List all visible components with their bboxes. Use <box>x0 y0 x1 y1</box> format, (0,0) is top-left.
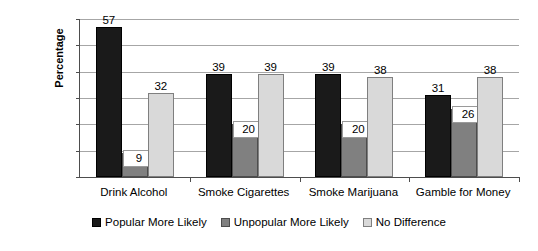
y-tick-mark <box>76 177 80 178</box>
x-category-label: Smoke Marijuana <box>299 186 409 198</box>
legend-swatch-icon <box>92 218 101 227</box>
y-axis-title: Percentage <box>53 3 73 113</box>
legend-label: Popular More Likely <box>105 216 207 228</box>
bar-group: 392039 <box>206 19 284 177</box>
bar <box>96 27 122 177</box>
bar-value-label: 38 <box>367 64 393 76</box>
y-tick-mark <box>76 98 80 99</box>
bar <box>206 74 232 177</box>
legend-swatch-icon <box>363 218 372 227</box>
bar <box>258 74 284 177</box>
x-axis-separator-tick <box>409 177 410 182</box>
bar-value-label: 38 <box>477 64 503 76</box>
legend-swatch-icon <box>221 218 230 227</box>
bar-chart: Percentage 0102030405060 579323920393920… <box>0 0 538 251</box>
bar-value-label: 39 <box>206 61 232 73</box>
y-tick-mark <box>76 124 80 125</box>
x-axis-separator-tick <box>519 177 520 182</box>
x-axis-separator-tick <box>190 177 191 182</box>
bar <box>367 77 393 177</box>
chart-legend: Popular More LikelyUnpopular More Likely… <box>0 216 538 228</box>
x-category-label: Smoke Cigarettes <box>189 186 299 198</box>
bar-group: 312638 <box>425 19 503 177</box>
x-axis-separator-tick <box>300 177 301 182</box>
bar-group: 57932 <box>96 19 174 177</box>
legend-label: No Difference <box>376 216 446 228</box>
legend-label: Unpopular More Likely <box>234 216 349 228</box>
y-tick-mark <box>76 45 80 46</box>
bar-value-label: 31 <box>425 82 451 94</box>
legend-item[interactable]: Unpopular More Likely <box>221 216 349 228</box>
x-category-label: Drink Alcohol <box>79 186 189 198</box>
plot-area: 57932392039392038312638 <box>79 19 519 178</box>
bar <box>315 74 341 177</box>
bar-value-label: 39 <box>258 61 284 73</box>
bar-group: 392038 <box>315 19 393 177</box>
legend-item[interactable]: Popular More Likely <box>92 216 207 228</box>
y-tick-mark <box>76 151 80 152</box>
y-tick-mark <box>76 72 80 73</box>
y-tick-mark <box>76 19 80 20</box>
bar <box>477 77 503 177</box>
bar <box>148 93 174 177</box>
x-category-label: Gamble for Money <box>408 186 518 198</box>
bar <box>425 95 451 177</box>
bar-value-label: 32 <box>148 80 174 92</box>
bar-value-label: 39 <box>315 61 341 73</box>
bar-value-label: 57 <box>96 14 122 26</box>
legend-item[interactable]: No Difference <box>363 216 446 228</box>
